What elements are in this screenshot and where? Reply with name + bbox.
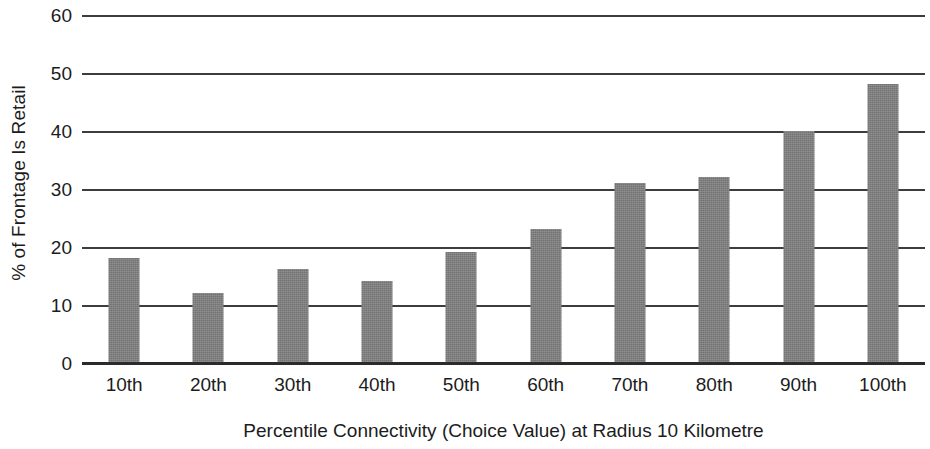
y-axis-title: % of Frontage Is Retail xyxy=(0,0,38,366)
y-tick-label-40: 40 xyxy=(38,122,72,141)
bar-100th xyxy=(867,84,898,362)
bar-slot xyxy=(672,15,756,363)
x-tick-label-70th: 70th xyxy=(588,374,672,396)
y-tick-label-60: 60 xyxy=(38,6,72,25)
plot-area xyxy=(82,15,925,363)
x-tick-label-50th: 50th xyxy=(419,374,503,396)
bar-slot xyxy=(82,15,166,363)
bar-40th xyxy=(362,281,393,362)
bar-slot xyxy=(756,15,840,363)
bar-30th xyxy=(277,269,308,362)
bar-80th xyxy=(699,177,730,362)
bar-slot xyxy=(335,15,419,363)
bar-50th xyxy=(446,252,477,362)
x-axis-title: Percentile Connectivity (Choice Value) a… xyxy=(82,420,925,442)
x-tick-label-100th: 100th xyxy=(841,374,925,396)
y-axis-title-text: % of Frontage Is Retail xyxy=(8,85,30,281)
x-tick-label-20th: 20th xyxy=(166,374,250,396)
x-tick-label-40th: 40th xyxy=(335,374,419,396)
y-tick-label-10: 10 xyxy=(38,296,72,315)
x-tick-label-10th: 10th xyxy=(82,374,166,396)
bar-chart-figure: % of Frontage Is Retail 60 50 40 30 20 1… xyxy=(0,0,930,449)
bar-slot xyxy=(166,15,250,363)
y-tick-label-20: 20 xyxy=(38,238,72,257)
bar-slot xyxy=(504,15,588,363)
y-tick-label-0: 0 xyxy=(38,354,72,373)
y-tick-label-50: 50 xyxy=(38,64,72,83)
bar-10th xyxy=(109,258,140,362)
bar-70th xyxy=(614,183,645,362)
bar-90th xyxy=(783,131,814,362)
x-tick-label-90th: 90th xyxy=(756,374,840,396)
bar-60th xyxy=(530,229,561,362)
x-tick-label-60th: 60th xyxy=(504,374,588,396)
x-tick-labels: 10th20th30th40th50th60th70th80th90th100t… xyxy=(82,374,925,400)
bar-20th xyxy=(193,293,224,362)
bar-slot xyxy=(251,15,335,363)
y-tick-label-30: 30 xyxy=(38,180,72,199)
bar-slot xyxy=(841,15,925,363)
bars-layer xyxy=(82,15,925,363)
bar-slot xyxy=(419,15,503,363)
bar-slot xyxy=(588,15,672,363)
x-tick-label-30th: 30th xyxy=(251,374,335,396)
x-tick-label-80th: 80th xyxy=(672,374,756,396)
